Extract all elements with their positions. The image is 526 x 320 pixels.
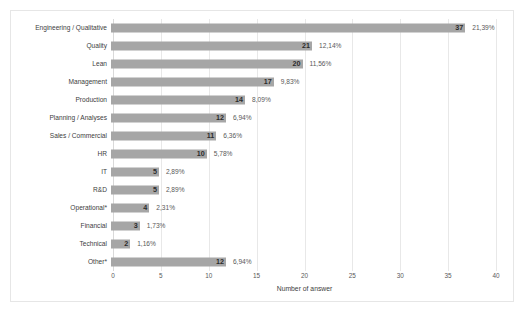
x-tick-label: 35 — [445, 273, 452, 279]
bar-percent-label: 11,56% — [306, 61, 332, 68]
bar-row: R&D52,89% — [11, 181, 496, 199]
bar-value-label: 4 — [143, 204, 149, 211]
bar-percent-label: 1,73% — [143, 223, 166, 230]
bar-row: Other*126,94% — [11, 253, 496, 271]
bar-track: 126,94% — [111, 253, 496, 271]
bar-row: Financial31,73% — [11, 217, 496, 235]
bar-value-label: 12 — [216, 114, 226, 121]
category-label: Other* — [11, 259, 111, 266]
bar-percent-label: 6,94% — [229, 259, 252, 266]
bar-value-label: 10 — [197, 150, 207, 157]
x-tick-label: 20 — [301, 273, 308, 279]
bar[interactable] — [111, 78, 274, 87]
bar-value-label: 20 — [293, 60, 303, 67]
bar-percent-label: 6,36% — [219, 133, 242, 140]
bar-percent-label: 2,89% — [162, 187, 185, 194]
bar[interactable] — [111, 186, 159, 195]
bar-value-label: 3 — [134, 222, 140, 229]
bar[interactable] — [111, 24, 465, 33]
bar-percent-label: 9,83% — [277, 79, 300, 86]
category-label: Engineering / Qualitative — [11, 25, 111, 32]
bar-value-label: 21 — [302, 42, 312, 49]
bar-track: 21,16% — [111, 235, 496, 253]
category-label: Technical — [11, 241, 111, 248]
bar-percent-label: 21,39% — [468, 25, 494, 32]
bar-value-label: 5 — [153, 186, 159, 193]
x-tick-label: 0 — [111, 273, 115, 279]
bar-track: 3721,39% — [111, 19, 496, 37]
bar-track: 148,09% — [111, 91, 496, 109]
bar-row: Operational*42,31% — [11, 199, 496, 217]
bar-value-label: 11 — [207, 132, 217, 139]
bar-percent-label: 2,89% — [162, 169, 185, 176]
bar-track: 52,89% — [111, 163, 496, 181]
bar-value-label: 12 — [216, 258, 226, 265]
bar-track: 52,89% — [111, 181, 496, 199]
bar-row: Planning / Analyses126,94% — [11, 109, 496, 127]
bar[interactable] — [111, 60, 303, 69]
bar-value-label: 14 — [235, 96, 245, 103]
bar-row: Engineering / Qualitative3721,39% — [11, 19, 496, 37]
bar-track: 179,83% — [111, 73, 496, 91]
bar-percent-label: 8,09% — [248, 97, 271, 104]
bar-percent-label: 1,16% — [133, 241, 156, 248]
category-label: Sales / Commercial — [11, 133, 111, 140]
bar[interactable] — [111, 258, 226, 267]
bar-track: 116,36% — [111, 127, 496, 145]
category-label: Production — [11, 97, 111, 104]
bar-percent-label: 12,14% — [315, 43, 341, 50]
bar-row: Sales / Commercial116,36% — [11, 127, 496, 145]
bar-percent-label: 5,78% — [210, 151, 233, 158]
category-label: Planning / Analyses — [11, 115, 111, 122]
bar-value-label: 17 — [264, 78, 274, 85]
category-label: IT — [11, 169, 111, 176]
x-tick-label: 30 — [397, 273, 404, 279]
x-tick-label: 5 — [159, 273, 163, 279]
bar[interactable] — [111, 168, 159, 177]
bar-track: 42,31% — [111, 199, 496, 217]
bar[interactable] — [111, 150, 207, 159]
bar-track: 2011,56% — [111, 55, 496, 73]
bar-track: 105,78% — [111, 145, 496, 163]
category-label: Lean — [11, 61, 111, 68]
bar-percent-label: 2,31% — [152, 205, 175, 212]
category-label: R&D — [11, 187, 111, 194]
category-label: HR — [11, 151, 111, 158]
bar-row: Technical21,16% — [11, 235, 496, 253]
gridline-40 — [496, 19, 497, 271]
bar-percent-label: 6,94% — [229, 115, 252, 122]
bar-value-label: 37 — [455, 24, 465, 31]
category-label: Financial — [11, 223, 111, 230]
x-tick-label: 15 — [253, 273, 260, 279]
bar-value-label: 2 — [124, 240, 130, 247]
category-label: Operational* — [11, 205, 111, 212]
bar-track: 31,73% — [111, 217, 496, 235]
bar[interactable] — [111, 114, 226, 123]
x-axis-title: Number of answer — [113, 286, 496, 293]
category-label: Quality — [11, 43, 111, 50]
x-tick-label: 10 — [205, 273, 212, 279]
category-label: Management — [11, 79, 111, 86]
bar[interactable] — [111, 96, 245, 105]
bar-rows: Engineering / Qualitative3721,39%Quality… — [11, 19, 496, 271]
bar-track: 2112,14% — [111, 37, 496, 55]
bar-value-label: 5 — [153, 168, 159, 175]
chart-container: Engineering / Qualitative3721,39%Quality… — [10, 10, 514, 302]
bar[interactable] — [111, 132, 216, 141]
bar[interactable] — [111, 42, 312, 51]
bar-row: Lean2011,56% — [11, 55, 496, 73]
x-tick-label: 25 — [349, 273, 356, 279]
bar-row: IT52,89% — [11, 163, 496, 181]
bar-track: 126,94% — [111, 109, 496, 127]
bar-row: Quality2112,14% — [11, 37, 496, 55]
bar-row: Management179,83% — [11, 73, 496, 91]
bar-row: HR105,78% — [11, 145, 496, 163]
x-tick-label: 40 — [492, 273, 499, 279]
bar-row: Production148,09% — [11, 91, 496, 109]
